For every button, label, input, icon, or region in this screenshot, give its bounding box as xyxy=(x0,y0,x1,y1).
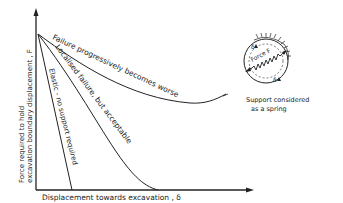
ground-reaction-diagram: Failure progressively becomes worse Loca… xyxy=(0,0,343,203)
x-axis-label: Displacement towards excavation , δ xyxy=(42,193,181,202)
spring-inset: Force F δ δ xyxy=(223,33,291,96)
y-axis-arrow-icon xyxy=(34,8,39,16)
delta-top-label: δ xyxy=(251,43,255,50)
inset-caption-line2: as a spring xyxy=(251,105,287,113)
label-elastic: Elastic - no support required xyxy=(47,68,79,166)
inset-caption-line1: Support considered xyxy=(246,96,309,104)
y-axis-label-line2: excavation boundary displacement , F xyxy=(26,49,34,183)
x-axis-arrow-icon xyxy=(246,188,254,193)
y-axis-label-line1: Force required to hold xyxy=(18,106,26,183)
delta-bottom-label: δ xyxy=(273,76,277,83)
